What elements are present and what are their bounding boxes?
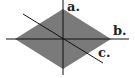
label-b: b. — [113, 23, 127, 38]
label-c: c. — [98, 45, 110, 60]
rhombus-diagram: a. b. c. — [0, 0, 135, 78]
label-a: a. — [67, 0, 80, 14]
